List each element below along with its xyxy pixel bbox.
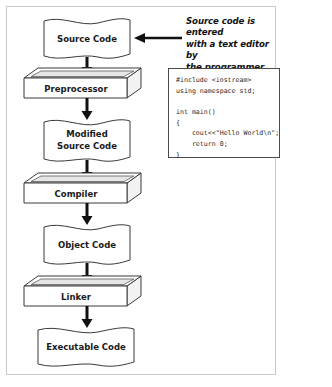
code-sample-box: #include <iostream> using namespace std;…: [168, 68, 280, 158]
annotation-line: Source code is entered: [186, 16, 282, 39]
connector-preprocessor-to-modified: [82, 98, 93, 120]
flow-node-label: Executable Code: [46, 342, 126, 352]
flow-node-label: Source Code: [57, 34, 117, 44]
flow-node-modified-source-code: Modified Source Code: [44, 120, 130, 161]
arrow-head-icon: [82, 111, 93, 120]
flow-node-label: Linker: [61, 292, 92, 302]
flow-node-label-line2: Source Code: [57, 141, 117, 151]
code-line: #include <iostream>: [176, 75, 279, 86]
box-slot: [31, 279, 134, 285]
code-line: cout<<"Hello World\n";: [176, 128, 279, 139]
connector-compiler-to-object: [82, 203, 93, 225]
flowchart-diagram: Source Code Preprocessor Modified Source…: [0, 0, 332, 387]
flow-node-linker: Linker: [24, 276, 141, 306]
code-line-blank: [176, 96, 279, 107]
flow-node-executable-code: Executable Code: [38, 328, 134, 366]
flow-node-object-code: Object Code: [44, 225, 130, 264]
flow-node-compiler: Compiler: [24, 173, 141, 203]
arrow-head-icon: [134, 33, 145, 43]
code-line: return 0;: [176, 139, 279, 150]
box-slot: [31, 71, 134, 77]
flow-node-label: Compiler: [55, 189, 99, 199]
flow-node-label: Modified: [66, 129, 107, 139]
flow-node-label: Preprocessor: [44, 84, 108, 94]
arrow-head-icon: [82, 216, 93, 225]
box-slot: [31, 176, 134, 182]
flow-node-label: Object Code: [58, 240, 116, 250]
flow-node-source-code: Source Code: [44, 19, 130, 58]
code-line: }: [176, 150, 279, 161]
annotation-line: with a text editor by: [186, 39, 282, 62]
annotation-arrow: [134, 33, 182, 43]
figure-root: Source Code Preprocessor Modified Source…: [0, 0, 332, 387]
code-line: {: [176, 118, 279, 129]
flow-node-preprocessor: Preprocessor: [24, 68, 141, 98]
code-line: int main(): [176, 107, 279, 118]
arrow-head-icon: [82, 319, 93, 328]
code-line: using namespace std;: [176, 86, 279, 97]
connector-linker-to-executable: [82, 306, 93, 328]
annotation-text: Source code is entered with a text edito…: [186, 16, 282, 73]
